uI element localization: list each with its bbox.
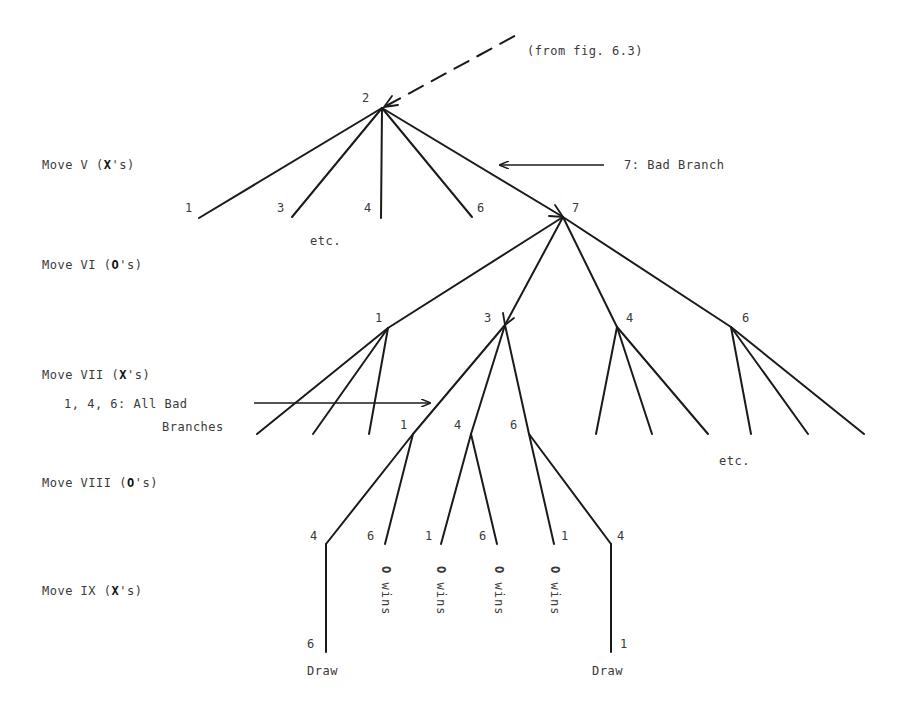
edge-vi4-c: [617, 327, 708, 434]
row-label-move-v: Move V (X's): [42, 158, 135, 172]
all-bad-branches-note-line2: Branches: [162, 420, 224, 434]
node-vi-3: 3: [484, 311, 491, 325]
edge-vii4-1: [441, 434, 471, 544]
game-tree-canvas: [0, 0, 899, 706]
row-label-move-vi: Move VI (O's): [42, 258, 142, 272]
edge-vi1-b: [313, 328, 388, 434]
node-vi-1: 1: [375, 311, 382, 325]
etc-note-move-v: etc.: [310, 234, 341, 248]
edge-7-3: [505, 217, 563, 325]
o-wins-outcome-4: O wins: [548, 566, 562, 615]
edge-2-7: [382, 108, 563, 217]
node-vii-1: 1: [400, 418, 407, 432]
node-vi-4: 4: [626, 311, 633, 325]
edge-vi1-c: [369, 328, 388, 434]
node-vii-6: 6: [510, 418, 517, 432]
edge-2-4: [381, 108, 382, 218]
node-viii-1b: 1: [561, 529, 568, 543]
edge-vi1-a: [257, 328, 388, 434]
node-viii-1a: 1: [425, 529, 432, 543]
node-v-7: 7: [572, 201, 579, 215]
edge-2-6: [382, 108, 472, 217]
node-viii-6b: 6: [479, 529, 486, 543]
dashed-incoming-edge: [386, 33, 520, 106]
node-v-6: 6: [477, 201, 484, 215]
o-wins-outcome-2: O wins: [434, 566, 448, 615]
edge-vi4-b: [617, 327, 652, 434]
bad-branch-note: 7: Bad Branch: [624, 158, 724, 172]
draw-outcome-1: Draw: [307, 664, 338, 678]
node-root-label: 2: [362, 91, 369, 105]
node-ix-6: 6: [307, 637, 314, 651]
edge-2-1: [199, 108, 382, 218]
row-label-move-ix: Move IX (X's): [42, 584, 142, 598]
node-viii-4: 4: [310, 529, 317, 543]
node-ix-1: 1: [620, 637, 627, 651]
edge-vii4-6: [471, 434, 497, 544]
node-viii-4b: 4: [617, 529, 624, 543]
source-note: (from fig. 6.3): [527, 44, 643, 58]
node-viii-6a: 6: [367, 529, 374, 543]
node-v-4: 4: [364, 201, 371, 215]
o-wins-outcome-3: O wins: [492, 566, 506, 615]
edge-7-1: [388, 217, 563, 328]
edge-vi6-a: [731, 327, 751, 434]
row-label-move-vii: Move VII (X's): [42, 368, 150, 382]
all-bad-branches-note-line1: 1, 4, 6: All Bad: [64, 397, 188, 411]
etc-note-move-vii: etc.: [719, 454, 750, 468]
row-label-move-viii: Move VIII (O's): [42, 476, 158, 490]
draw-outcome-2: Draw: [592, 664, 623, 678]
node-v-1: 1: [185, 201, 192, 215]
node-v-3: 3: [277, 201, 284, 215]
edge-3-4: [471, 325, 505, 434]
o-wins-outcome-1: O wins: [379, 566, 393, 615]
node-vi-6: 6: [742, 311, 749, 325]
edge-vi4-a: [596, 327, 617, 434]
node-vii-4: 4: [454, 418, 461, 432]
edge-7-6: [563, 217, 731, 327]
